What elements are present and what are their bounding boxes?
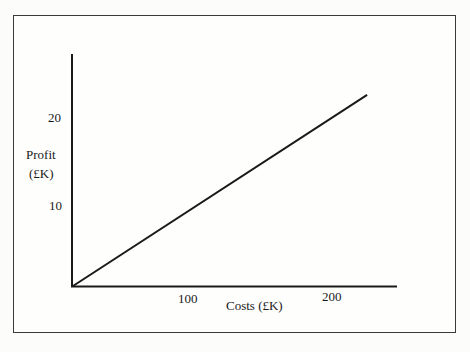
y-tick-label-20: 20	[48, 111, 61, 124]
x-axis-title: Costs (£K)	[226, 299, 283, 312]
y-axis-title-line1: Profit	[26, 148, 56, 161]
x-tick-label-200: 200	[322, 290, 342, 303]
y-axis-title-line2: (£K)	[29, 167, 54, 180]
chart-page: 20 Profit (£K) 10 100 200 Costs (£K)	[0, 0, 470, 352]
x-tick-label-100: 100	[178, 292, 198, 305]
y-tick-label-10: 10	[49, 199, 62, 212]
profit-cost-line	[73, 95, 367, 286]
